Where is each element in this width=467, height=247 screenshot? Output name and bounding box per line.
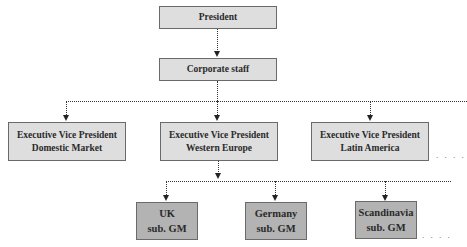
scandinavia-subsidiary-box: Scandinavia sub. GM: [355, 201, 417, 239]
evp-region: Domestic Market: [32, 142, 102, 155]
divisions-bus-line: [66, 101, 467, 102]
subsidiary-role: sub. GM: [256, 221, 295, 236]
arrow-down-icon: [214, 115, 220, 121]
evp-domestic-box: Executive Vice President Domestic Market: [8, 122, 126, 161]
arrow-down-icon: [215, 173, 221, 179]
evp-latin-america-box: Executive Vice President Latin America: [311, 122, 429, 161]
connector-domestic: [66, 101, 67, 115]
corporate-staff-box: Corporate staff: [159, 58, 277, 81]
president-label: President: [199, 11, 237, 24]
evp-region: Western Europe: [186, 142, 252, 155]
connector-western-subs: [218, 160, 219, 174]
connector-uk: [166, 181, 167, 195]
subsidiary-name: UK: [159, 206, 175, 221]
connector-president-staff: [217, 28, 218, 52]
arrow-down-icon: [367, 115, 373, 121]
uk-subsidiary-box: UK sub. GM: [136, 202, 198, 240]
connector-scandinavia: [385, 181, 386, 195]
evp-title: Executive Vice President: [169, 129, 269, 142]
arrow-down-icon: [63, 115, 69, 121]
more-divisions-ellipsis: . . . .: [436, 150, 466, 160]
connector-western: [217, 101, 218, 115]
subsidiary-name: Germany: [255, 206, 298, 221]
evp-title: Executive Vice President: [320, 129, 420, 142]
president-box: President: [159, 6, 277, 29]
connector-staff-divisions: [217, 81, 218, 101]
evp-western-europe-box: Executive Vice President Western Europe: [160, 122, 278, 161]
arrow-down-icon: [163, 195, 169, 201]
arrow-down-icon: [272, 195, 278, 201]
subsidiary-role: sub. GM: [366, 220, 405, 235]
subsidiaries-bus-line: [166, 181, 451, 182]
connector-latin: [370, 101, 371, 115]
evp-region: Latin America: [341, 142, 400, 155]
germany-subsidiary-box: Germany sub. GM: [245, 202, 307, 240]
evp-title: Executive Vice President: [17, 129, 117, 142]
subsidiary-role: sub. GM: [147, 221, 186, 236]
connector-germany: [275, 181, 276, 195]
arrow-down-icon: [214, 51, 220, 57]
more-subsidiaries-ellipsis: . . . .: [422, 230, 452, 240]
subsidiary-name: Scandinavia: [359, 205, 414, 220]
corporate-staff-label: Corporate staff: [187, 63, 250, 76]
